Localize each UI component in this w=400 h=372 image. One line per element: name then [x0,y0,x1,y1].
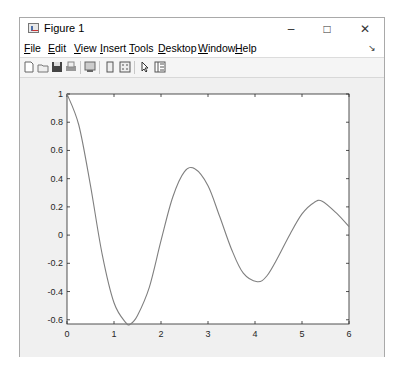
y-tick-label: 1 [58,89,63,99]
window-title: Figure 1 [44,22,84,34]
menu-insert[interactable]: Insert [100,42,126,54]
menu-tools[interactable]: Tools [129,42,154,54]
x-tick-label: 4 [252,329,257,339]
menu-desktop[interactable]: Desktop [158,42,197,54]
print-preview-icon[interactable] [84,61,96,73]
menu-edit[interactable]: Edit [48,42,66,54]
y-tick-label: 0.8 [50,117,63,127]
new-figure-icon[interactable] [23,61,35,73]
x-tick-label: 2 [158,329,163,339]
line-chart[interactable]: 012345610.80.60.40.20-0.2-0.4-0.6 [20,78,384,357]
y-tick-label: 0.6 [50,145,63,155]
figure-window: Figure 1 – □ ✕ File Edit View Insert Too… [19,17,385,357]
matlab-figure-icon [28,23,39,33]
dock-arrow-icon[interactable]: ↘ [368,43,376,53]
edit-plot-arrow-icon[interactable] [139,61,151,73]
save-icon[interactable] [51,61,63,73]
y-tick-label: 0.2 [50,202,63,212]
x-tick-label: 3 [205,329,210,339]
toolbar [20,58,384,78]
link-plot-icon[interactable] [104,61,116,73]
x-tick-label: 1 [111,329,116,339]
y-tick-label: 0.4 [50,174,63,184]
menu-window[interactable]: Window [198,42,235,54]
menu-file[interactable]: File [24,42,41,54]
toolbar-separator [80,61,81,74]
y-tick-label: -0.2 [47,258,63,268]
menu-view[interactable]: View [74,42,97,54]
toolbar-separator [99,61,100,74]
property-inspector-icon[interactable] [154,61,166,73]
x-tick-label: 5 [299,329,304,339]
print-icon[interactable] [65,61,77,73]
close-button[interactable]: ✕ [350,20,380,38]
y-tick-label: -0.4 [47,287,63,297]
toolbar-separator [134,61,135,74]
maximize-button[interactable]: □ [312,20,342,38]
insert-legend-icon[interactable] [119,61,131,73]
figure-canvas: 012345610.80.60.40.20-0.2-0.4-0.6 [20,78,384,357]
title-bar[interactable]: Figure 1 – □ ✕ [20,18,384,40]
x-tick-label: 6 [346,329,351,339]
y-tick-label: 0 [58,230,63,240]
menu-help[interactable]: Help [235,42,257,54]
x-tick-label: 0 [64,329,69,339]
menu-bar: File Edit View Insert Tools Desktop Wind… [20,40,384,58]
open-file-icon[interactable] [37,61,49,73]
minimize-button[interactable]: – [276,20,306,38]
y-tick-label: -0.6 [47,315,63,325]
